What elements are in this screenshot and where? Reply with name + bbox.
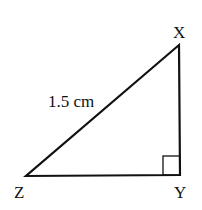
vertex-label-x: X bbox=[173, 23, 185, 42]
right-angle-marker bbox=[163, 156, 180, 175]
triangle-diagram: X Z Y 1.5 cm bbox=[0, 0, 202, 210]
vertex-label-z: Z bbox=[14, 183, 24, 202]
side-length-label: 1.5 cm bbox=[48, 92, 94, 111]
vertex-label-y: Y bbox=[174, 183, 186, 202]
triangle-svg: X Z Y 1.5 cm bbox=[0, 0, 202, 210]
